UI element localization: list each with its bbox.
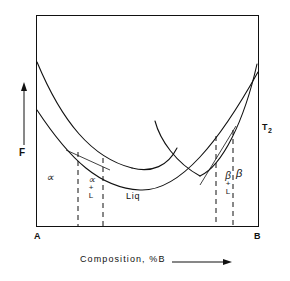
y-axis-arrow-icon: [21, 82, 27, 145]
region-label-liquid: Liq: [126, 192, 140, 201]
temperature-label-subscript: 2: [268, 127, 272, 134]
x-axis-endpoint-a: A: [34, 232, 41, 241]
figure-canvas: [0, 0, 290, 281]
region-label-beta: β: [236, 168, 243, 179]
x-axis-arrow-icon: [172, 259, 232, 265]
alpha-free-energy-curve: [37, 62, 132, 168]
temperature-label: T2: [262, 123, 272, 134]
free-energy-composition-figure: F Composition, %B A B T2 ∝ ∝ + L Liq β +…: [0, 0, 290, 281]
region-label-alpha-plus-liquid-bot: L: [82, 192, 100, 200]
region-label-beta-plus-liquid: β + L: [219, 172, 237, 196]
x-axis-endpoint-b: B: [254, 232, 261, 241]
region-label-alpha: ∝: [46, 172, 55, 183]
x-axis-label: Composition, %B: [80, 255, 166, 264]
y-axis-label: F: [19, 148, 26, 158]
region-label-alpha-plus-liquid: ∝ + L: [82, 176, 100, 200]
beta-free-energy-curve-left-branch: [155, 121, 200, 176]
region-label-beta-plus-liquid-bot: L: [219, 188, 237, 196]
